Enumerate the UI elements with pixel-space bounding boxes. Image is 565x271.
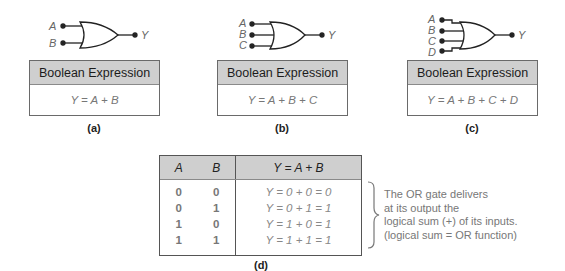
input-label-b: B xyxy=(49,37,56,49)
header-b: B xyxy=(198,156,236,179)
input-columns: 0 0 0 1 1 0 1 1 xyxy=(160,180,236,256)
note-line: (logical sum = OR function) xyxy=(384,229,518,243)
input-label-c: C xyxy=(239,39,247,51)
output-label-y: Y xyxy=(141,29,149,41)
header-y-label: Y = A + B xyxy=(273,161,323,175)
cell-y: Y = 0 + 1 = 1 xyxy=(266,200,332,216)
output-label-y: Y xyxy=(518,29,526,41)
or-gate-4-input xyxy=(440,18,514,53)
cell-b: 0 xyxy=(198,184,236,200)
cell-a: 0 xyxy=(160,200,198,216)
note-line: at its output the xyxy=(384,202,518,216)
boolean-expression-box-c: Boolean Expression Y = A + B + C + D xyxy=(407,60,538,116)
note-line: logical sum (+) of its inputs. xyxy=(384,215,518,229)
caption-a: (a) xyxy=(74,122,114,134)
or-gate-diagrams: A B Y A B C Y A B C D Y xyxy=(0,0,565,60)
explanation-note: The OR gate delivers at its output the l… xyxy=(384,188,518,242)
header-inputs: A B xyxy=(160,156,236,179)
truth-table-header: A B Y = A + B xyxy=(160,156,361,180)
cell-b: 0 xyxy=(198,216,236,232)
boolean-expression-box-a: Boolean Expression Y = A + B xyxy=(29,60,160,116)
cell-y: Y = 0 + 0 = 0 xyxy=(266,184,332,200)
table-row: 0 0 xyxy=(160,184,235,200)
cell-b: 1 xyxy=(198,232,236,248)
cell-a: 1 xyxy=(160,232,198,248)
box-header: Boolean Expression xyxy=(408,61,537,85)
cell-a: 0 xyxy=(160,184,198,200)
header-y: Y = A + B xyxy=(236,156,361,179)
caption-d: (d) xyxy=(241,259,281,271)
boolean-expression: Y = A + B xyxy=(30,85,159,115)
output-label-y: Y xyxy=(328,29,336,41)
or-gate-3-input xyxy=(250,22,324,49)
truth-table: A B Y = A + B 0 0 0 1 1 0 1 1 xyxy=(159,155,362,256)
output-column: Y = 0 + 0 = 0 Y = 0 + 1 = 1 Y = 1 + 0 = … xyxy=(236,180,361,256)
table-row: 0 1 xyxy=(160,200,235,216)
cell-a: 1 xyxy=(160,216,198,232)
input-label-d: D xyxy=(428,46,436,58)
truth-table-body: 0 0 0 1 1 0 1 1 Y = 0 + 0 = 0 Y = 0 + 1 … xyxy=(160,180,361,256)
or-gate-2-input xyxy=(61,22,137,48)
caption-c: (c) xyxy=(452,122,492,134)
box-header: Boolean Expression xyxy=(30,61,159,85)
header-a: A xyxy=(160,156,198,179)
cell-y: Y = 1 + 0 = 1 xyxy=(266,216,332,232)
cell-b: 1 xyxy=(198,200,236,216)
table-row: 1 1 xyxy=(160,232,235,248)
table-row: 1 0 xyxy=(160,216,235,232)
cell-y: Y = 1 + 1 = 1 xyxy=(266,232,332,248)
note-line: The OR gate delivers xyxy=(384,188,518,202)
input-label-a: A xyxy=(48,20,56,32)
boolean-expression: Y = A + B + C xyxy=(218,85,347,115)
caption-b: (b) xyxy=(262,122,302,134)
box-header: Boolean Expression xyxy=(218,61,347,85)
curly-brace-icon xyxy=(364,180,384,250)
boolean-expression-box-b: Boolean Expression Y = A + B + C xyxy=(217,60,348,116)
boolean-expression: Y = A + B + C + D xyxy=(408,85,537,115)
